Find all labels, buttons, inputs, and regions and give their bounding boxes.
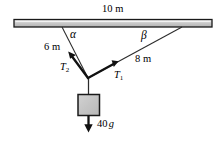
tension-vectors [68, 51, 118, 78]
rope-lines [62, 27, 182, 95]
t2-vector-shaft [72, 56, 89, 78]
weight-label: 40g [97, 119, 114, 130]
block-body [78, 95, 100, 116]
weight-vector-arrowhead [84, 124, 92, 132]
t2-subscript: 2 [66, 66, 70, 74]
t1-vector-shaft [88, 64, 114, 78]
t1-subscript: 1 [120, 74, 124, 82]
t2-tension-label: T2 [60, 62, 69, 73]
beam [14, 20, 212, 28]
weight-symbol: g [109, 118, 114, 129]
left-rope-length-label: 6 m [44, 42, 60, 53]
beam-body [14, 20, 212, 28]
force-diagram-figure: 10 m α 6 m T2 β 8 m T1 40g [0, 0, 222, 144]
alpha-angle-label: α [70, 29, 76, 41]
weight-vector [84, 116, 92, 133]
t1-tension-label: T1 [114, 70, 123, 81]
weight-magnitude: 40 [97, 118, 108, 129]
beam-length-label: 10 m [102, 4, 123, 15]
beta-angle-label: β [141, 30, 147, 42]
t1-symbol: T [114, 69, 120, 80]
right-rope-length-label: 8 m [135, 54, 151, 65]
hanging-block [78, 95, 100, 116]
t2-symbol: T [60, 61, 66, 72]
